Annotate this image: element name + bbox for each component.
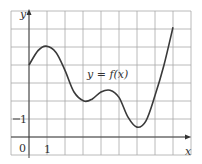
y-tick-label-1: 1 (20, 113, 27, 126)
function-graph: y x 0 1 1 y = f(x) (0, 0, 202, 164)
grid-lines (11, 11, 191, 155)
y-axis-arrow-icon (27, 9, 32, 15)
curve-label: y = f(x) (86, 68, 128, 81)
x-axis-arrow-icon (185, 135, 191, 140)
x-tick-label-1: 1 (44, 143, 51, 156)
origin-label: 0 (19, 142, 26, 155)
y-axis-label: y (19, 8, 27, 21)
x-axis-label: x (185, 145, 192, 158)
